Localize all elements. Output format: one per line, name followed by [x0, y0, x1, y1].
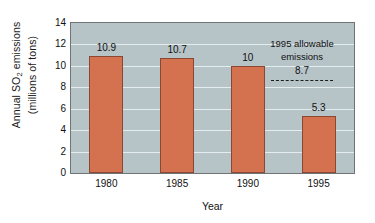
so2-emissions-bar-chart: Annual SO2 emissions (millions of tons) …: [0, 0, 375, 223]
y-axis-tick-label: 12: [44, 38, 66, 49]
y-axis-tick-label: 6: [44, 102, 66, 113]
y-axis-title-line1: Annual SO2 emissions: [10, 0, 26, 150]
x-axis-tick-label: 1985: [151, 178, 203, 189]
x-axis-tick-labels: 1980198519901995: [70, 178, 355, 194]
y-axis-tick-label: 8: [44, 81, 66, 92]
y-axis-tick-label: 14: [44, 17, 66, 28]
y-axis-title-subscript: 2: [15, 72, 24, 76]
bar-value-label: 10: [225, 52, 271, 63]
y-axis-tick-labels: 02468101214: [40, 22, 66, 174]
y-axis-tick-label: 0: [44, 167, 66, 178]
y-axis-title-prefix: Annual SO: [10, 77, 22, 129]
bar-value-label: 10.9: [83, 42, 129, 53]
x-axis-title: Year: [70, 200, 355, 212]
allowable-emissions-value: 8.7: [267, 65, 337, 76]
annotation-line1: 1995 allowable: [254, 38, 350, 51]
allowable-emissions-dashed-line: [271, 80, 333, 81]
x-axis-tick-label: 1995: [293, 178, 345, 189]
x-axis-tick-label: 1990: [222, 178, 274, 189]
y-axis-tick-label: 10: [44, 59, 66, 70]
bar: [302, 116, 336, 173]
bar-value-label: 5.3: [296, 102, 342, 113]
y-axis-tick-label: 4: [44, 124, 66, 135]
bar: [231, 66, 265, 173]
y-axis-title-suffix: emissions: [10, 22, 22, 73]
plot-area: 1995 allowable emissions 8.7 10.910.7105…: [70, 22, 355, 174]
x-axis-tick-label: 1980: [80, 178, 132, 189]
y-axis-title: Annual SO2 emissions (millions of tons): [10, 0, 44, 150]
bar: [160, 58, 194, 173]
y-axis-title-line2: (millions of tons): [26, 0, 39, 150]
y-axis-tick-label: 2: [44, 145, 66, 156]
bar-value-label: 10.7: [154, 44, 200, 55]
bar: [89, 56, 123, 173]
